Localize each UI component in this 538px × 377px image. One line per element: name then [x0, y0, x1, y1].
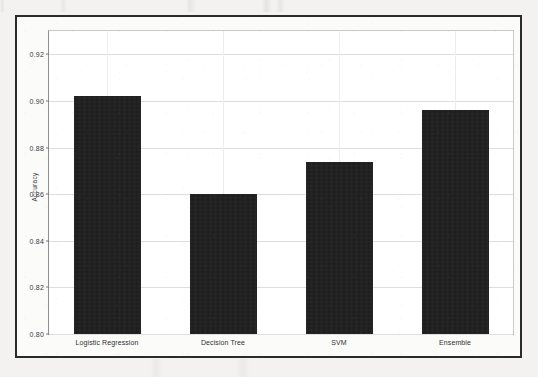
bar-logistic-regression: [74, 96, 141, 334]
y-axis-tick-label: 0.92: [30, 51, 44, 58]
x-axis-tick-label: Decision Tree: [201, 339, 245, 346]
y-axis-tick-label: 0.80: [30, 331, 44, 338]
y-axis-tick-mark: [46, 240, 49, 241]
y-axis-tick-label: 0.88: [30, 144, 44, 151]
y-axis-tick-label: 0.84: [30, 237, 44, 244]
y-axis-tick-mark: [46, 287, 49, 288]
y-axis-tick-mark: [46, 194, 49, 195]
scan-artifact-top-edge: [0, 0, 538, 12]
y-axis-tick-mark: [46, 147, 49, 148]
y-axis-tick-mark: [46, 54, 49, 55]
y-axis-tick-label: 0.86: [30, 191, 44, 198]
bar-ensemble: [422, 110, 489, 334]
bar-decision-tree: [190, 194, 257, 334]
y-axis-tick-label: 0.82: [30, 284, 44, 291]
x-axis-tick-label: Ensemble: [439, 339, 471, 346]
y-axis-tick-mark: [46, 100, 49, 101]
scan-artifact-bottom-edge: [0, 359, 538, 377]
x-axis-tick-label: SVM: [331, 339, 346, 346]
plot-area: 0.800.820.840.860.880.900.92Logistic Reg…: [48, 30, 514, 335]
y-axis-tick-mark: [46, 334, 49, 335]
bar-svm: [306, 162, 373, 334]
chart-figure-frame: Accuracy 0.800.820.840.860.880.900.92Log…: [15, 15, 522, 358]
x-axis-tick-label: Logistic Regression: [76, 339, 139, 346]
gridline-horizontal: [49, 334, 513, 335]
plot-wrapper: Accuracy 0.800.820.840.860.880.900.92Log…: [17, 17, 520, 356]
gridline-horizontal: [49, 54, 513, 55]
y-axis-tick-label: 0.90: [30, 97, 44, 104]
